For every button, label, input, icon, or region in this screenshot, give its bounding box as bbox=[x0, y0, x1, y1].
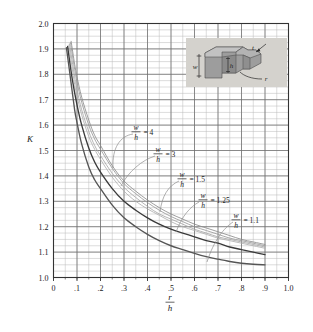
y-tick-label: 1.3 bbox=[39, 197, 49, 206]
fraction-denominator: h bbox=[180, 180, 184, 189]
x-tick-label: .4 bbox=[145, 284, 151, 293]
annotation-value: = 3 bbox=[166, 150, 176, 159]
y-tick-label: 1.5 bbox=[39, 147, 49, 156]
fraction-numerator: w bbox=[233, 211, 238, 220]
x-tick-label: .7 bbox=[215, 284, 221, 293]
fraction-numerator: w bbox=[200, 191, 205, 200]
stress-concentration-chart: 0.1.2.3.4.5.6.7.8.91.0 1.01.11.21.31.41.… bbox=[0, 0, 313, 332]
fraction-numerator: w bbox=[155, 145, 160, 154]
x-tick-label: .1 bbox=[74, 284, 80, 293]
y-tick-label: 1.4 bbox=[39, 172, 49, 181]
inset-stepped-bar-illustration: whtr bbox=[186, 38, 287, 87]
x-tick-label: .2 bbox=[98, 284, 104, 293]
inset-label-w: w bbox=[193, 63, 198, 71]
annotation-value: = 1.1 bbox=[244, 216, 260, 225]
x-tick-label: .8 bbox=[239, 284, 245, 293]
y-tick-label: 1.2 bbox=[39, 223, 49, 232]
annotation-value: = 1.5 bbox=[190, 175, 206, 184]
fraction-denominator: h bbox=[134, 133, 138, 142]
x-tick-label: 1.0 bbox=[284, 284, 294, 293]
y-tick-label: 1.6 bbox=[39, 121, 49, 130]
x-tick-label: .6 bbox=[192, 284, 198, 293]
x-tick-label: .3 bbox=[121, 284, 127, 293]
fraction-denominator: h bbox=[201, 201, 205, 210]
annotation-value: = 4 bbox=[144, 128, 154, 137]
x-tick-label: .9 bbox=[262, 284, 268, 293]
y-tick-label: 1.1 bbox=[39, 248, 49, 257]
y-tick-label: 2.0 bbox=[39, 20, 49, 29]
fraction-numerator: w bbox=[179, 170, 184, 179]
inset-label-h: h bbox=[230, 62, 234, 70]
y-axis-label: K bbox=[26, 134, 34, 144]
y-tick-label: 1.8 bbox=[39, 70, 49, 79]
fraction-denominator: h bbox=[234, 221, 238, 230]
fraction-denominator: h bbox=[156, 155, 160, 164]
y-tick-label: 1.0 bbox=[39, 274, 49, 283]
x-axis-label-denominator: h bbox=[168, 303, 173, 313]
annotation-value: = 1.25 bbox=[211, 196, 230, 205]
inset-label-r: r bbox=[265, 75, 268, 83]
x-axis-label-numerator: r bbox=[168, 292, 172, 302]
y-tick-label: 1.9 bbox=[39, 45, 49, 54]
chart-figure: 0.1.2.3.4.5.6.7.8.91.0 1.01.11.21.31.41.… bbox=[0, 0, 313, 332]
fraction-numerator: w bbox=[133, 123, 138, 132]
y-tick-label: 1.7 bbox=[39, 96, 49, 105]
x-tick-label: 0 bbox=[52, 284, 56, 293]
